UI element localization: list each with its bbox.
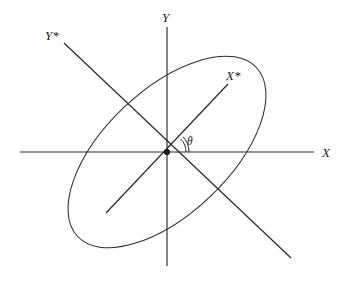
x-star-axis-label: X*: [225, 68, 241, 83]
x-axis-label: X: [321, 145, 331, 160]
y-axis-label: Y: [162, 10, 171, 25]
origin-point: [164, 149, 170, 155]
y-star-axis-line: [64, 43, 291, 258]
theta-angle-arc-inner: [181, 139, 186, 152]
theta-angle-label: θ: [187, 135, 193, 147]
y-star-axis-label: Y*: [45, 28, 59, 43]
figure-container: X Y X* Y* θ: [0, 0, 347, 287]
coordinate-ellipse-diagram: X Y X* Y* θ: [0, 0, 347, 287]
